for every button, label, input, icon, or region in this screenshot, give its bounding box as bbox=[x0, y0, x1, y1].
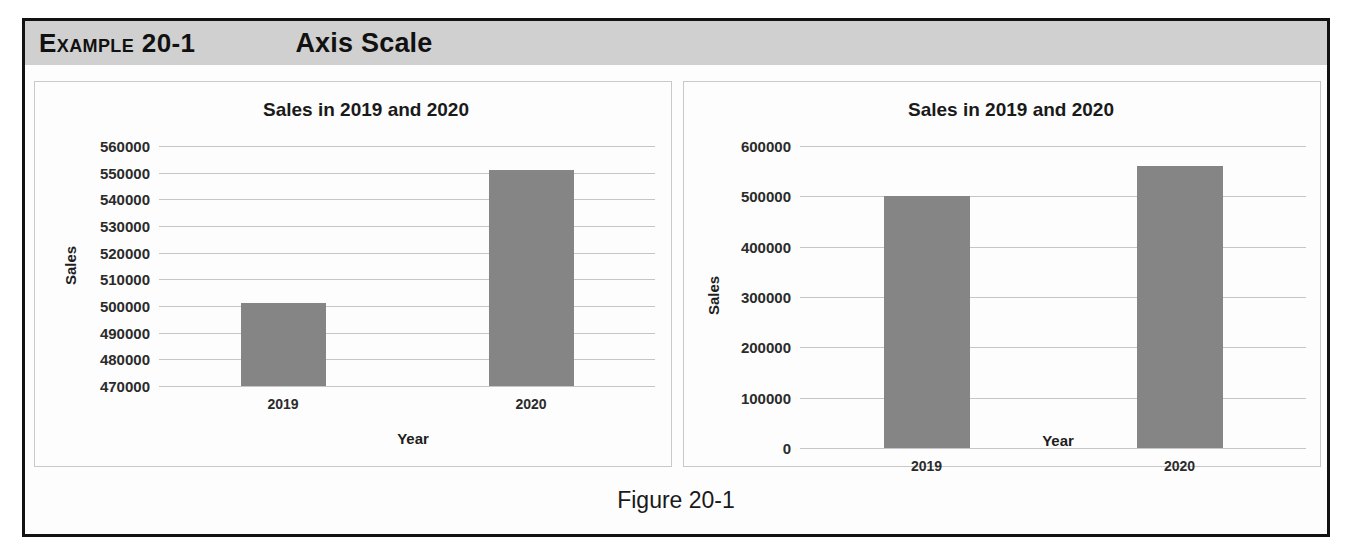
gridline bbox=[159, 199, 655, 200]
gridline bbox=[159, 386, 655, 387]
y-axis-tick-label: 500000 bbox=[741, 188, 791, 205]
y-axis-title-left: Sales bbox=[62, 246, 79, 285]
y-axis-tick-label: 500000 bbox=[100, 298, 150, 315]
plot-area-right: 6000005000004000003000002000001000000201… bbox=[800, 146, 1306, 448]
gridline bbox=[159, 146, 655, 147]
gridline bbox=[159, 173, 655, 174]
example-header-bar: Example 20-1 Axis Scale bbox=[25, 21, 1327, 66]
x-axis-tick-label: 2020 bbox=[1164, 458, 1195, 474]
gridline bbox=[159, 279, 655, 280]
y-axis-tick-label: 300000 bbox=[741, 289, 791, 306]
x-axis-title-right: Year bbox=[684, 432, 1320, 449]
y-axis-tick-label: 490000 bbox=[100, 324, 150, 341]
bar-2019 bbox=[884, 196, 970, 448]
y-axis-tick-label: 550000 bbox=[100, 164, 150, 181]
gridline bbox=[800, 146, 1306, 147]
chart-panel-left: Sales in 2019 and 2020 Sales 56000055000… bbox=[34, 81, 672, 467]
bar-2020 bbox=[1137, 166, 1223, 448]
y-axis-tick-label: 400000 bbox=[741, 238, 791, 255]
y-axis-tick-label: 520000 bbox=[100, 244, 150, 261]
plot-area-left: 5600005500005400005300005200005100005000… bbox=[159, 146, 655, 386]
gridline bbox=[800, 247, 1306, 248]
bar-2020 bbox=[489, 170, 574, 386]
y-axis-tick-label: 100000 bbox=[741, 389, 791, 406]
chart-title-left: Sales in 2019 and 2020 bbox=[35, 99, 671, 121]
x-axis-title-left: Year bbox=[35, 430, 671, 447]
y-axis-tick-label: 600000 bbox=[741, 138, 791, 155]
y-axis-tick-label: 510000 bbox=[100, 271, 150, 288]
gridline bbox=[800, 347, 1306, 348]
x-axis-tick-label: 2020 bbox=[515, 396, 546, 412]
gridline bbox=[800, 297, 1306, 298]
gridline bbox=[159, 226, 655, 227]
x-axis-tick-label: 2019 bbox=[911, 458, 942, 474]
figure-caption: Figure 20-1 bbox=[25, 487, 1327, 514]
gridline bbox=[159, 306, 655, 307]
gridline bbox=[800, 196, 1306, 197]
y-axis-tick-label: 200000 bbox=[741, 339, 791, 356]
y-axis-tick-label: 530000 bbox=[100, 218, 150, 235]
y-axis-tick-label: 470000 bbox=[100, 378, 150, 395]
y-axis-tick-label: 480000 bbox=[100, 351, 150, 368]
bar-2019 bbox=[241, 303, 326, 386]
y-axis-tick-label: 560000 bbox=[100, 138, 150, 155]
charts-area: Sales in 2019 and 2020 Sales 56000055000… bbox=[25, 65, 1327, 534]
gridline bbox=[159, 359, 655, 360]
chart-panel-right: Sales in 2019 and 2020 Sales 60000050000… bbox=[683, 81, 1321, 467]
gridline bbox=[800, 398, 1306, 399]
example-box: Example 20-1 Axis Scale Sales in 2019 an… bbox=[22, 18, 1330, 537]
example-number-label: Example 20-1 bbox=[39, 28, 195, 59]
gridline bbox=[159, 253, 655, 254]
example-title: Axis Scale bbox=[295, 28, 432, 59]
chart-title-right: Sales in 2019 and 2020 bbox=[684, 99, 1320, 121]
y-axis-title-right: Sales bbox=[705, 276, 722, 315]
x-axis-tick-label: 2019 bbox=[267, 396, 298, 412]
gridline bbox=[159, 333, 655, 334]
y-axis-tick-label: 540000 bbox=[100, 191, 150, 208]
